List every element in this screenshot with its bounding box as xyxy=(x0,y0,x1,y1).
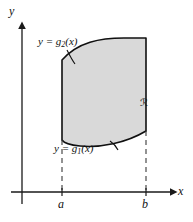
x-axis-arrowhead xyxy=(170,188,178,196)
tick-label-a: a xyxy=(58,198,64,210)
region-label: ℛ xyxy=(140,98,148,108)
figure-canvas xyxy=(0,0,193,222)
upper-curve-label-suffix: (x) xyxy=(65,35,77,47)
upper-curve-label-prefix: y = g xyxy=(38,35,61,47)
y-axis-label: y xyxy=(9,5,14,17)
figure-container: y x a b ℛ y = g2(x) y = g1(x) xyxy=(0,0,193,222)
lower-curve-label-prefix: y = g xyxy=(54,142,77,154)
lower-curve-label-suffix: (x) xyxy=(81,142,93,154)
y-axis-arrowhead xyxy=(18,22,26,30)
tick-label-b: b xyxy=(142,198,148,210)
upper-curve-label: y = g2(x) xyxy=(38,36,77,49)
lower-curve-label: y = g1(x) xyxy=(54,143,93,156)
region-shaded-area xyxy=(62,38,146,146)
x-axis-label: x xyxy=(178,185,183,197)
